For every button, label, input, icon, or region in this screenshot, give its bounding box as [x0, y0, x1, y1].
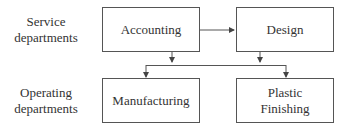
node-label: Accounting	[121, 22, 182, 38]
node-label: Manufacturing	[112, 93, 189, 109]
node-accounting: Accounting	[102, 7, 200, 52]
node-design: Design	[236, 7, 334, 52]
node-label-line: Plastic	[268, 85, 303, 101]
node-plastic-finishing: Plastic Finishing	[236, 78, 334, 123]
node-label-line: Finishing	[260, 101, 309, 117]
node-manufacturing: Manufacturing	[102, 78, 200, 123]
node-label: Design	[267, 22, 304, 38]
